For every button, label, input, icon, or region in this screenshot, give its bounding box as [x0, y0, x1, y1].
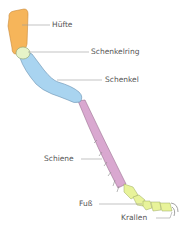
label-schenkel: Schenkel [105, 76, 139, 84]
schenkel-shape [20, 53, 82, 103]
krallen-shape [171, 203, 178, 216]
label-huefte: Hüfte [52, 21, 72, 29]
fuss-segments [124, 184, 172, 211]
label-schiene: Schiene [44, 155, 74, 163]
insect-leg-diagram: Hüfte Schenkelring Schenkel Schiene Fuß … [0, 0, 189, 230]
schiene-shape [78, 100, 126, 188]
leg-illustration [0, 0, 189, 230]
label-fuss: Fuß [79, 200, 92, 208]
label-krallen: Krallen [121, 214, 147, 222]
schenkelring-shape [16, 47, 30, 59]
label-schenkelring: Schenkelring [91, 48, 139, 56]
